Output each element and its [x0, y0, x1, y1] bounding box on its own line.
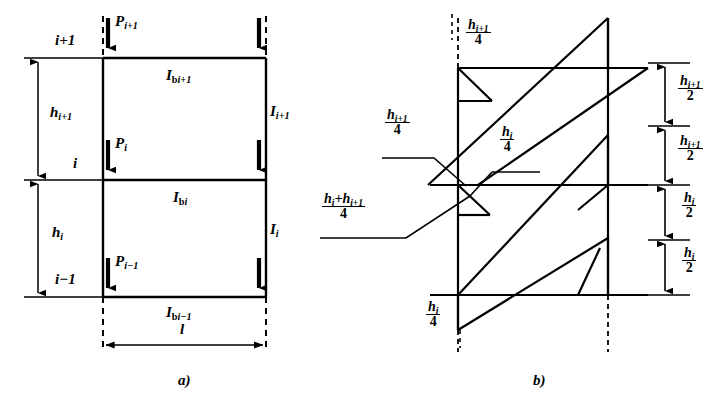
height-label-h-i: hi [52, 225, 63, 240]
annotation-h-i-plus-1-over-4-mid: hi+1 4 [385, 108, 410, 138]
annotation-h-i-plus-1-over-4-top: hi+1 4 [466, 18, 491, 48]
storey-label-i: i [73, 156, 77, 171]
height-label-h-i-plus-1: hi+1 [50, 105, 72, 120]
beam-inertia-label-i-minus-1: Ibi−1 [166, 305, 192, 320]
storey-label-i-plus-1: i+1 [55, 33, 75, 48]
moment-curves-upper [428, 18, 648, 185]
dimension-label-h-i-plus-1-over-2-upper: hi+1 2 [678, 74, 703, 104]
moment-curves-lower [430, 238, 648, 330]
caption-b: b) [533, 372, 546, 389]
beam-inertia-label-i-plus-1: Ibi+1 [166, 68, 191, 83]
storey-reference-lines [24, 58, 103, 297]
span-label-l: l [180, 322, 184, 337]
annotation-h-i-over-4-bottom: hi 4 [426, 300, 440, 330]
moment-curves-middle [430, 135, 648, 295]
column-extension-dashed [103, 16, 266, 352]
caption-a: a) [178, 372, 191, 389]
dimension-label-h-i-over-2-lower: hi 2 [682, 246, 696, 276]
dimension-label-h-i-plus-1-over-2-lower: hi+1 2 [678, 134, 703, 164]
load-label-p-i-minus-1: Pi−1 [115, 254, 138, 269]
column-inertia-label-i-plus-1: Ii+1 [270, 104, 290, 119]
dimension-label-h-i-over-2-upper: hi 2 [682, 191, 696, 221]
part-a-frame [24, 16, 266, 352]
load-label-p-i-plus-1: Pi+1 [115, 14, 138, 29]
beam-inertia-label-i: Ibi [173, 190, 187, 205]
load-label-p-i: Pi [115, 136, 127, 151]
column-inertia-label-i: Ii [270, 222, 279, 237]
annotation-h-sum-over-4: hi+hi+1 4 [322, 192, 365, 222]
leader-lines-b [320, 14, 540, 348]
storey-label-i-minus-1: i−1 [55, 272, 76, 287]
part-b-moment-diagram [320, 14, 690, 352]
annotation-h-i-over-4-mid: hi 4 [500, 125, 514, 155]
